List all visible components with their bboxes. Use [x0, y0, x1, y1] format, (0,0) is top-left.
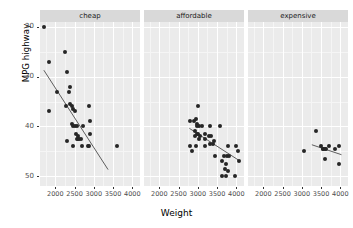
x-axis-tick-mark [302, 187, 303, 189]
x-axis-tick-label: 4000 [124, 191, 141, 198]
x-axis-tick-label: 4000 [332, 191, 349, 198]
x-axis-tick-mark [283, 187, 284, 189]
data-point [79, 137, 83, 141]
data-point [197, 137, 201, 141]
data-point [203, 137, 207, 141]
x-axis-tick-label: 2000 [255, 191, 272, 198]
y-axis-tick-mark [37, 27, 39, 28]
x-axis-affordable: 20002500300035004000 [144, 187, 244, 199]
data-point [42, 25, 46, 29]
x-axis-tick-mark [217, 187, 218, 189]
data-point [55, 90, 59, 94]
facet-strip-expensive: expensive [248, 10, 348, 22]
x-axis-tick-mark [94, 187, 95, 189]
x-axis-tick-mark [263, 187, 264, 189]
x-axis-title: Weight [0, 208, 353, 218]
data-point [88, 132, 92, 136]
data-point [63, 50, 67, 54]
facet-strip-label: expensive [280, 13, 316, 20]
x-axis-tick-label: 2000 [151, 191, 168, 198]
x-axis-cheap: 20002500300035004000 [40, 187, 140, 199]
x-axis-tick-label: 3000 [86, 191, 103, 198]
x-axis-tick-label: 2500 [66, 191, 83, 198]
facet-strip-label: cheap [79, 13, 100, 20]
data-point [203, 132, 207, 136]
data-point [67, 90, 71, 94]
regression-line [144, 22, 244, 186]
facet-panel-cheap: cheap20002500300035004000 [40, 10, 140, 186]
x-axis-tick-mark [321, 187, 322, 189]
y-axis-tick-label: 40 [14, 123, 34, 130]
data-point [337, 162, 341, 166]
x-axis-tick-label: 3500 [209, 191, 226, 198]
x-axis-tick-label: 3500 [105, 191, 122, 198]
y-axis-tick-label: 20 [14, 23, 34, 30]
facet-strip-cheap: cheap [40, 10, 140, 22]
facet-strip-label: affordable [176, 13, 212, 20]
data-point [81, 124, 85, 128]
scatter-chart: MPG highway 50403020 cheap20002500300035… [0, 0, 353, 228]
regression-line [248, 22, 348, 186]
data-point [224, 162, 228, 166]
facet-panels: cheap20002500300035004000affordable20002… [40, 10, 348, 186]
data-point [194, 117, 198, 121]
x-axis-tick-label: 2500 [170, 191, 187, 198]
x-axis-tick-mark [159, 187, 160, 189]
x-axis-expensive: 20002500300035004000 [248, 187, 348, 199]
x-axis-tick-mark [113, 187, 114, 189]
x-axis-tick-mark [132, 187, 133, 189]
data-point [203, 144, 207, 148]
plot-area-cheap [40, 22, 140, 186]
data-point [211, 142, 215, 146]
data-point [237, 159, 241, 163]
plot-area-affordable [144, 22, 244, 186]
x-axis-tick-mark [236, 187, 237, 189]
y-axis-title: MPG highway [21, 0, 31, 123]
x-axis-tick-mark [55, 187, 56, 189]
x-axis-tick-label: 3000 [294, 191, 311, 198]
data-point [333, 147, 337, 151]
data-point [65, 70, 69, 74]
x-axis-tick-mark [75, 187, 76, 189]
facet-panel-expensive: expensive20002500300035004000 [248, 10, 348, 186]
data-point [233, 174, 237, 178]
x-axis-tick-label: 3500 [313, 191, 330, 198]
facet-strip-affordable: affordable [144, 10, 244, 22]
y-axis-tick-label: 50 [14, 173, 34, 180]
y-axis-tick-label: 30 [14, 73, 34, 80]
x-axis-tick-label: 4000 [228, 191, 245, 198]
x-axis-tick-mark [340, 187, 341, 189]
data-point [213, 154, 217, 158]
y-axis-tick-mark [37, 176, 39, 177]
x-axis-tick-label: 3000 [190, 191, 207, 198]
x-axis-tick-mark [179, 187, 180, 189]
x-axis-tick-label: 2500 [274, 191, 291, 198]
y-axis-tick-mark [37, 126, 39, 127]
x-axis-tick-label: 2000 [47, 191, 64, 198]
x-axis-tick-mark [198, 187, 199, 189]
data-point [337, 144, 341, 148]
y-axis-tick-mark [37, 77, 39, 78]
data-point [323, 157, 327, 161]
facet-panel-affordable: affordable20002500300035004000 [144, 10, 244, 186]
plot-area-expensive [248, 22, 348, 186]
data-point [65, 139, 69, 143]
